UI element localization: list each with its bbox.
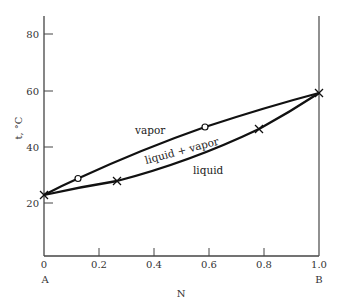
y-ticks (44, 34, 53, 203)
x-axis-label: N (177, 288, 186, 299)
component-a-label: A (40, 274, 49, 285)
y-tick-label: 60 (26, 86, 39, 97)
x-ticks (99, 248, 264, 256)
liquid-point-marker (255, 125, 263, 133)
vapor-point-marker (202, 124, 208, 130)
y-axis-label: t, °C (13, 116, 24, 139)
vapor-point-marker (75, 176, 81, 182)
x-tick-label: 0.2 (91, 259, 107, 270)
y-tick-label: 40 (26, 142, 39, 153)
x-tick-label: 1.0 (311, 259, 327, 270)
x-tick-label: 0 (41, 259, 47, 270)
y-tick-label: 80 (26, 29, 39, 40)
phase-diagram: 80 60 40 20 0 0.2 0.4 0.6 0.8 1.0 A B N … (0, 0, 339, 306)
x-tick-label: 0.6 (201, 259, 217, 270)
y-tick-label: 20 (26, 198, 39, 209)
component-b-label: B (315, 274, 322, 285)
region-label-vapor: vapor (134, 124, 166, 136)
x-tick-label: 0.4 (146, 259, 162, 270)
region-label-liquid: liquid (193, 164, 224, 176)
x-tick-label: 0.8 (256, 259, 272, 270)
